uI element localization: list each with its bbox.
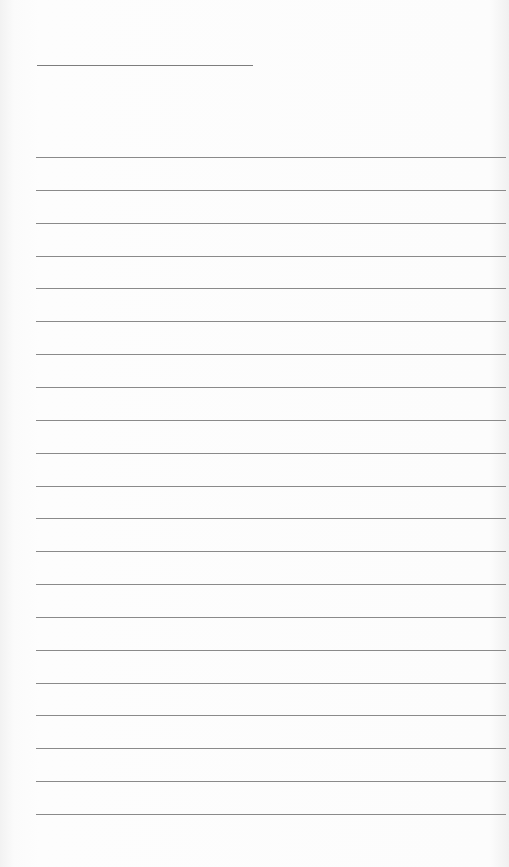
ruled-line xyxy=(36,288,506,289)
ruled-line xyxy=(36,157,506,158)
header-name-line xyxy=(37,65,253,66)
ruled-line xyxy=(36,420,506,421)
ruled-line xyxy=(36,748,506,749)
ruled-line xyxy=(36,387,506,388)
ruled-line xyxy=(36,551,506,552)
ruled-line xyxy=(36,223,506,224)
ruled-line xyxy=(36,518,506,519)
ruled-line xyxy=(36,814,506,815)
ruled-line xyxy=(36,584,506,585)
ruled-line xyxy=(36,453,506,454)
ruled-line xyxy=(36,321,506,322)
ruled-line xyxy=(36,190,506,191)
ruled-line xyxy=(36,781,506,782)
lined-paper xyxy=(0,0,509,867)
ruled-line xyxy=(36,617,506,618)
ruled-line xyxy=(36,486,506,487)
ruled-line xyxy=(36,354,506,355)
ruled-line xyxy=(36,715,506,716)
ruled-line xyxy=(36,256,506,257)
ruled-line xyxy=(36,683,506,684)
ruled-line xyxy=(36,650,506,651)
